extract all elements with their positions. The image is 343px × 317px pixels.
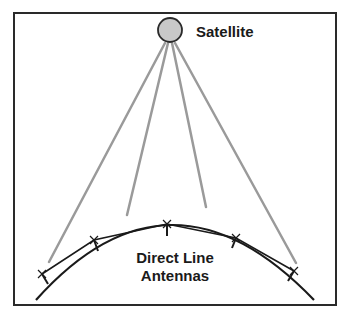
beam-line-2 <box>127 43 168 215</box>
beam-line-1 <box>49 43 165 262</box>
signal-beams <box>49 43 296 263</box>
antenna-icon <box>38 270 46 278</box>
satellite-icon <box>158 18 182 42</box>
satellite-diagram: Satellite Direct Line Antennas <box>0 0 343 317</box>
antennas-label-line2: Antennas <box>141 267 209 284</box>
antenna-icon <box>290 267 298 275</box>
satellite-label: Satellite <box>196 23 254 40</box>
antennas-label-line1: Direct Line <box>136 249 214 266</box>
